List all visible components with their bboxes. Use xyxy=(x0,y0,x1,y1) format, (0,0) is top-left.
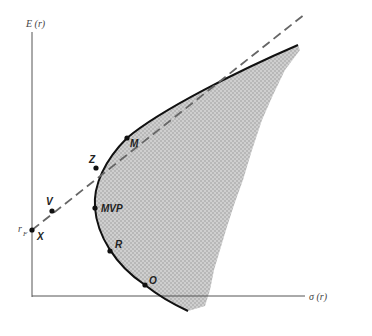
point-o xyxy=(142,282,147,287)
label-mvp: MVP xyxy=(101,203,123,214)
efficient-frontier-diagram: E (r) σ (r) r F X V Z M MVP R O xyxy=(0,0,372,336)
point-x xyxy=(29,227,34,232)
y-axis-label: E (r) xyxy=(25,18,46,30)
feasible-region xyxy=(95,45,300,311)
label-z: Z xyxy=(88,154,96,165)
point-mvp xyxy=(92,205,97,210)
label-m: M xyxy=(130,138,139,149)
rf-subscript: F xyxy=(22,230,28,238)
rf-label: r xyxy=(18,223,22,234)
x-axis-label: σ (r) xyxy=(309,291,328,303)
point-m xyxy=(124,135,129,140)
point-v xyxy=(49,208,54,213)
point-r xyxy=(107,248,112,253)
point-z xyxy=(93,165,98,170)
label-v: V xyxy=(46,196,54,207)
label-r: R xyxy=(115,239,123,250)
label-o: O xyxy=(149,275,157,286)
label-x: X xyxy=(36,231,45,242)
